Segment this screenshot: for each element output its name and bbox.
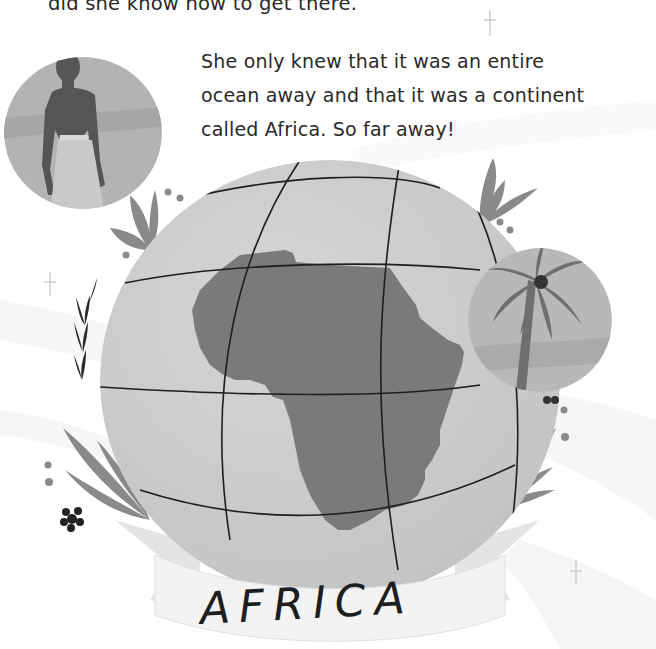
story-paragraph: She only knew that it was an entire ocea…	[201, 44, 531, 146]
paragraph-line: called Africa. So far away!	[201, 112, 531, 146]
globe	[100, 160, 560, 600]
flower-icon	[60, 507, 84, 532]
storybook-page: did she know how to get there.	[0, 0, 656, 649]
portrait-vignette	[0, 52, 170, 215]
paragraph-line: She only knew that it was an entire	[201, 44, 531, 78]
paragraph-line: ocean away and that it was a continent	[201, 78, 531, 112]
